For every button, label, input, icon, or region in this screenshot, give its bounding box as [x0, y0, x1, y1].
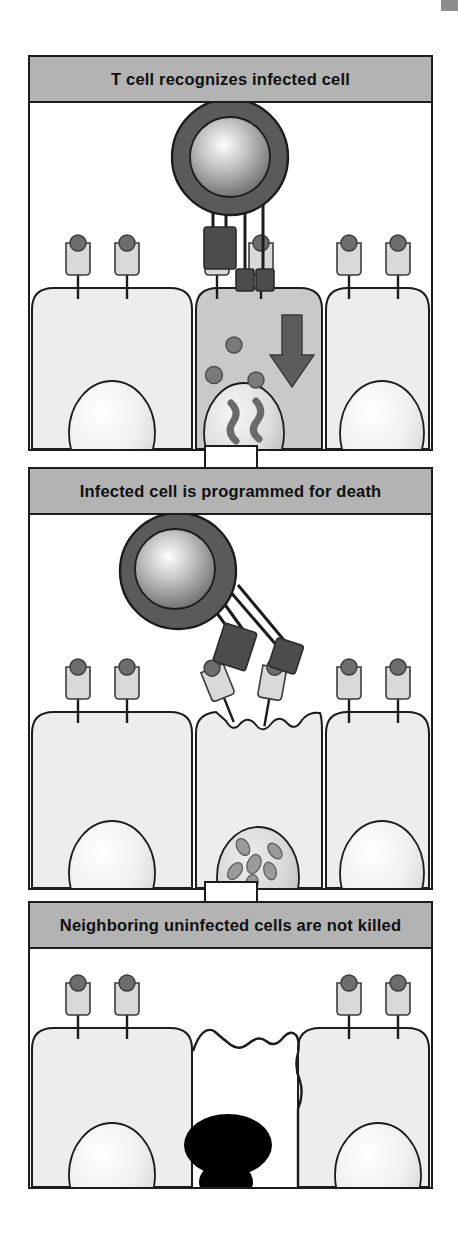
- epithelial-cell-dying: [196, 712, 322, 888]
- epithelial-cell-infected: [196, 288, 322, 449]
- apoptotic-body: [184, 1114, 272, 1187]
- t-cell-nucleus: [135, 529, 215, 609]
- panel-programmed-death-header: Infected cell is programmed for death: [30, 469, 431, 515]
- epithelial-cell-right: [326, 712, 429, 888]
- panel-programmed-death-title: Infected cell is programmed for death: [80, 482, 382, 501]
- cytotoxic-t-cell: [120, 515, 236, 629]
- t-cell-receptor-bound: [204, 227, 236, 269]
- t-cell-receptor-free: [256, 269, 274, 291]
- epithelial-cell-left: [32, 1028, 192, 1187]
- epithelial-cell-left: [32, 712, 192, 888]
- t-cell-nucleus: [190, 117, 270, 197]
- panel-neighbors-spared-body: [30, 949, 431, 1187]
- cytotoxic-t-cell: [172, 103, 288, 215]
- corner-registration-mark: [441, 0, 458, 11]
- panel-recognition-body: [30, 103, 431, 449]
- panel-programmed-death-body: [30, 515, 431, 888]
- epithelial-cell-right: [326, 288, 429, 449]
- epithelial-cell-left: [32, 288, 192, 449]
- panel-recognition: T cell recognizes infected cell: [28, 55, 433, 451]
- t-cell-receptors: [204, 203, 274, 291]
- panel-neighbors-spared-header: Neighboring uninfected cells are not kil…: [30, 903, 431, 949]
- figure-stage: T cell recognizes infected cell: [0, 0, 458, 1249]
- t-cell-receptor-free: [236, 269, 254, 291]
- panel-recognition-header: T cell recognizes infected cell: [30, 57, 431, 103]
- panel-neighbors-spared: Neighboring uninfected cells are not kil…: [28, 901, 433, 1189]
- epithelial-cell-right: [298, 1028, 429, 1187]
- panel-recognition-title: T cell recognizes infected cell: [111, 70, 350, 89]
- panel-programmed-death: Infected cell is programmed for death: [28, 467, 433, 890]
- panel-neighbors-spared-title: Neighboring uninfected cells are not kil…: [60, 916, 401, 935]
